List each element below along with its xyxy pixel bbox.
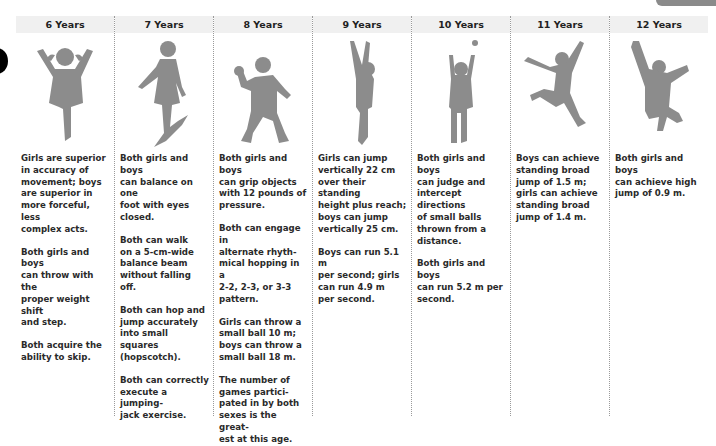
fact-text: Both girls and boys can grip objects wit… xyxy=(219,153,308,212)
section-tab xyxy=(656,0,716,6)
motor-development-table: 6 Years Girls are superior in accuracy o… xyxy=(16,16,702,416)
boy-throwing-silhouette-icon xyxy=(214,33,312,153)
fact-text: Boys can achieve standing broad jump of … xyxy=(516,153,605,224)
fact-text: Both can hop and jump accurately into sm… xyxy=(120,305,209,364)
fact-text: Both girls and boys can balance on one f… xyxy=(120,153,209,224)
age-column-11: 11 Years Boys can achieve standing broad… xyxy=(510,16,609,416)
girl-balancing-silhouette-icon xyxy=(115,33,213,153)
fact-text: Both can engage in alternate rhyth- mica… xyxy=(219,223,308,306)
child-reaching-up-silhouette-icon xyxy=(313,33,411,153)
fact-text: Both can correctly execute a jumping- ja… xyxy=(120,375,209,422)
age-header: 6 Years xyxy=(16,16,114,33)
fact-text: Girls can jump vertically 22 cm over the… xyxy=(318,153,407,236)
boy-high-jump-silhouette-icon xyxy=(610,33,708,153)
age-column-7: 7 Years Both girls and boys can balance … xyxy=(114,16,213,416)
girl-catching-ball-silhouette-icon xyxy=(412,33,510,153)
section-bullet-marker xyxy=(0,48,8,74)
fact-text: Both girls and boys can run 5.2 m per se… xyxy=(417,258,506,305)
fact-text: Both can walk on a 5-cm-wide balance bea… xyxy=(120,235,209,294)
age-column-10: 10 Years Both girls and boys can judge a… xyxy=(411,16,510,416)
age-header: 12 Years xyxy=(610,16,708,33)
age-header: 7 Years xyxy=(115,16,213,33)
fact-text: Girls are superior in accuracy of moveme… xyxy=(21,153,110,236)
age-header: 9 Years xyxy=(313,16,411,33)
fact-text: Both girls and boys can achieve high jum… xyxy=(615,153,704,200)
fact-text: Both acquire the ability to skip. xyxy=(21,340,110,364)
girl-leaping-silhouette-icon xyxy=(511,33,609,153)
age-column-8: 8 Years Both girls and boys can grip obj… xyxy=(213,16,312,416)
age-header: 10 Years xyxy=(412,16,510,33)
fact-text: Both girls and boys can judge and interc… xyxy=(417,153,506,247)
age-header: 8 Years xyxy=(214,16,312,33)
fact-text: The number of games partici- pated in by… xyxy=(219,375,308,446)
fact-text: Boys can run 5.1 m per second; girls can… xyxy=(318,247,407,306)
girl-jumping-silhouette-icon xyxy=(16,33,114,153)
fact-text: Girls can throw a small ball 10 m; boys … xyxy=(219,317,308,364)
age-column-6: 6 Years Girls are superior in accuracy o… xyxy=(16,16,114,416)
age-header: 11 Years xyxy=(511,16,609,33)
age-column-9: 9 Years Girls can jump vertically 22 cm … xyxy=(312,16,411,416)
age-column-12: 12 Years Both girls and boys can achieve… xyxy=(609,16,708,416)
fact-text: Both girls and boys can throw with the p… xyxy=(21,247,110,330)
